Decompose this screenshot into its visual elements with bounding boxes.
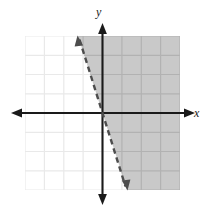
x-axis-arrow-left xyxy=(11,109,22,118)
y-axis-arrow-up xyxy=(98,23,107,34)
coordinate-plane-figure: y x xyxy=(0,0,206,215)
x-axis-label: x xyxy=(194,107,199,119)
y-axis-arrow-down xyxy=(98,194,107,205)
graph-canvas xyxy=(0,0,206,215)
y-axis-label: y xyxy=(96,6,101,18)
